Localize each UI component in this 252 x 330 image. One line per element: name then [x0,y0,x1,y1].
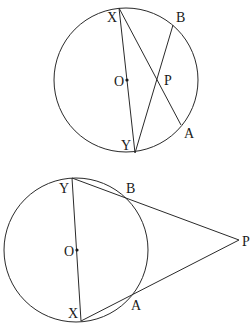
point-label-x: X [68,306,78,321]
point-label-x: X [107,10,117,25]
segment-yp [72,178,239,240]
figure-external-secants: YBOPAX [4,178,250,322]
center-point [125,78,128,81]
point-label-y: Y [121,138,131,153]
segment-xa [119,8,181,125]
point-label-p: P [242,234,250,249]
segment-xp [81,240,239,321]
geometry-diagram: XBOPAY YBOPAX [0,0,252,330]
point-label-p: P [164,73,172,88]
point-label-y: Y [59,181,69,196]
segment-yb [135,25,173,153]
center-point [75,248,78,251]
figure-intersecting-chords: XBOPAY [54,8,198,153]
point-label-o: O [114,74,124,89]
point-label-a: A [131,298,142,313]
point-label-o: O [64,244,74,259]
point-label-b: B [126,181,135,196]
point-label-b: B [176,10,185,25]
point-label-a: A [184,126,195,141]
